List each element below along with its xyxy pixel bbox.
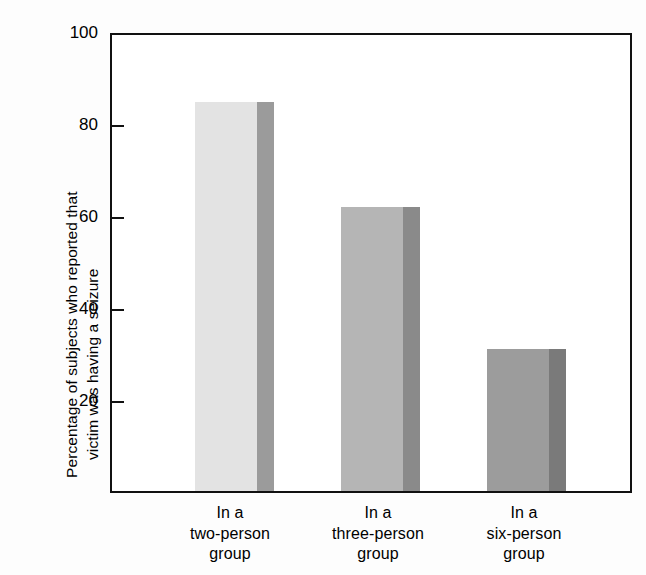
y-tick-20 [110,401,124,403]
y-axis-title-line-2: victim was having a seizure [83,191,103,460]
x-category-label-3-line-2: six-person [434,524,614,545]
y-axis-title: Percentage of subjects who reported that… [62,191,103,478]
y-tick-label-40: 40 [52,300,98,317]
bar-1-front-face [195,102,257,491]
bar-chart-figure: Percentage of subjects who reported that… [0,0,646,575]
x-category-label-3: In a six-person group [434,503,614,565]
x-category-label-3-line-1: In a [434,503,614,524]
bar-1 [195,85,274,491]
y-tick-label-100: 100 [52,24,98,41]
y-tick-60 [110,217,124,219]
y-axis-title-container: Percentage of subjects who reported that… [0,0,108,500]
y-tick-label-80: 80 [52,116,98,133]
bar-2-front-face [341,207,403,491]
y-tick-100 [110,33,124,35]
bar-3 [487,332,566,491]
y-tick-40 [110,309,124,311]
y-tick-80 [110,125,124,127]
bar-2-top-bevel [403,207,420,224]
bar-3-side-face [549,349,566,491]
bar-2-side-face [403,207,420,491]
bar-1-top-bevel [257,102,274,119]
y-tick-label-20: 20 [52,392,98,409]
x-category-label-3-line-3: group [434,544,614,565]
bar-1-side-face [257,102,274,491]
y-tick-label-60: 60 [52,208,98,225]
bar-3-front-face [487,349,549,491]
y-axis-title-line-1: Percentage of subjects who reported that [63,191,80,478]
bar-2 [341,190,420,491]
bar-3-top-bevel [549,349,566,366]
